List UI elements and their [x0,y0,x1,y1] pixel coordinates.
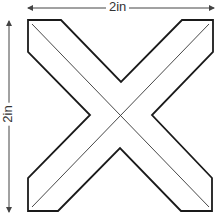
width-label: 2in [106,0,129,14]
height-label: 2in [1,102,15,125]
x-shape-diagram [0,0,220,216]
